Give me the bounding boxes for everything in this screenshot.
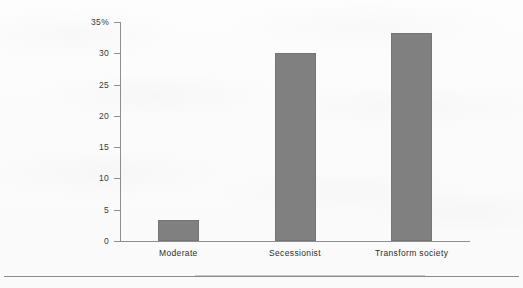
bar[interactable] <box>275 53 316 241</box>
y-tick-mark <box>114 178 120 179</box>
chart-page: 05101520253035% ModerateSecessionistTran… <box>0 0 523 288</box>
y-tick-label: 35% <box>9 18 114 27</box>
y-tick-mark <box>114 22 120 23</box>
bar-chart: 05101520253035% ModerateSecessionistTran… <box>0 0 523 288</box>
x-axis-category-label: Secessionist <box>237 249 354 258</box>
y-tick-mark <box>114 85 120 86</box>
bar[interactable] <box>391 33 432 241</box>
y-tick-mark <box>114 241 120 242</box>
x-axis-category-label: Transform society <box>353 249 470 258</box>
y-tick-mark <box>114 53 120 54</box>
bar[interactable] <box>158 220 199 241</box>
x-axis-line <box>120 241 470 242</box>
y-tick-mark <box>114 147 120 148</box>
y-tick-mark <box>114 116 120 117</box>
y-tick-label: 0 <box>9 237 114 246</box>
footer-divider-secondary <box>195 275 425 276</box>
y-tick-label: 25 <box>9 80 114 89</box>
y-tick-label: 10 <box>9 174 114 183</box>
footer-divider <box>4 276 519 277</box>
x-axis-category-label: Moderate <box>120 249 237 258</box>
y-tick-mark <box>114 210 120 211</box>
y-axis-line <box>120 22 121 242</box>
y-tick-label: 15 <box>9 143 114 152</box>
y-tick-label: 5 <box>9 205 114 214</box>
y-tick-label: 20 <box>9 112 114 121</box>
y-tick-label: 30 <box>9 49 114 58</box>
